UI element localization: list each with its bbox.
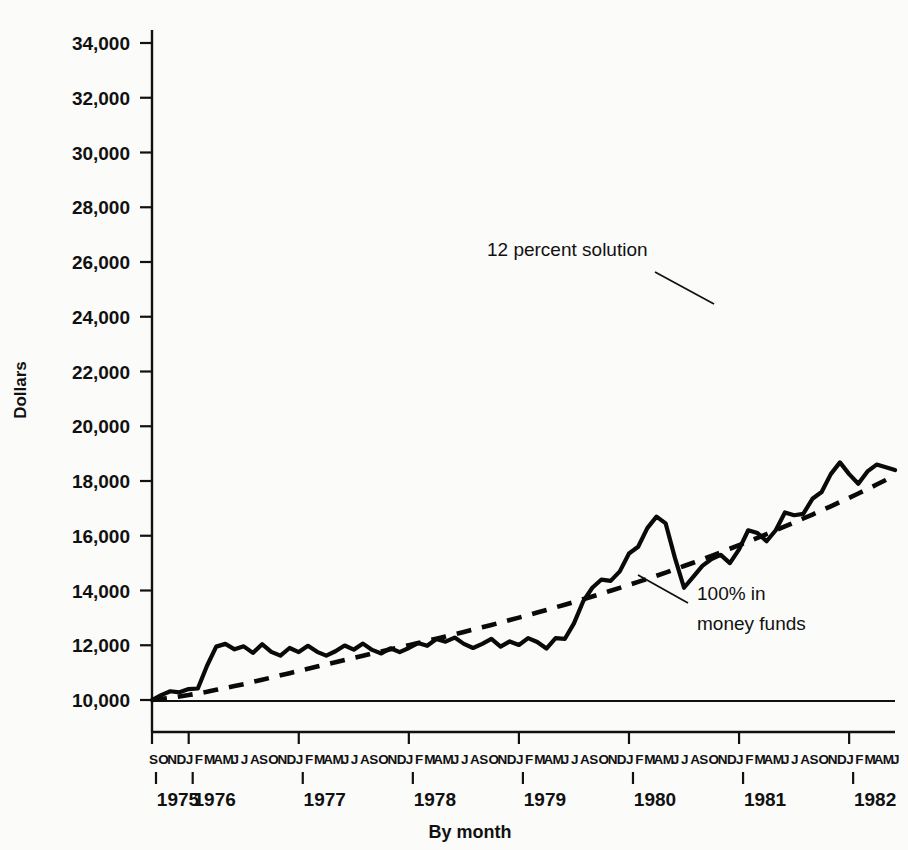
y-tick-label: 34,000: [72, 33, 130, 54]
y-tick-label: 16,000: [72, 526, 130, 547]
annotation-twelve-percent-leader: [655, 272, 714, 304]
y-tick-label: 22,000: [72, 362, 130, 383]
x-month-letter: N: [167, 752, 176, 767]
x-month-letter: J: [672, 752, 679, 767]
x-month-letter: J: [351, 752, 358, 767]
series-twelve-percent-line: [152, 462, 895, 700]
y-tick-label: 10,000: [72, 690, 130, 711]
x-month-letter: S: [699, 752, 708, 767]
y-axis-title-text: Dollars: [11, 361, 30, 419]
x-axis-month-letters: SONDJFMAMJJASONDJFMAMJJASONDJFMAMJJASOND…: [149, 752, 899, 767]
x-month-letter: F: [195, 752, 203, 767]
x-year-label: 1979: [524, 789, 566, 810]
x-month-letter: S: [149, 752, 158, 767]
y-tick-label: 32,000: [72, 88, 130, 109]
y-tick-label: 26,000: [72, 252, 130, 273]
x-month-letter: N: [828, 752, 837, 767]
x-month-letter: J: [782, 752, 789, 767]
x-month-letter: N: [608, 752, 617, 767]
x-month-letter: S: [369, 752, 378, 767]
x-month-letter: N: [718, 752, 727, 767]
x-year-label: 1980: [634, 789, 676, 810]
x-month-letter: J: [892, 752, 899, 767]
y-tick-label: 18,000: [72, 471, 130, 492]
annotation-money-funds-label-line1: 100% in: [697, 583, 766, 604]
y-axis-ticks: 10,00012,00014,00016,00018,00020,00022,0…: [72, 33, 152, 711]
x-month-letter: J: [736, 752, 743, 767]
x-month-letter: S: [589, 752, 598, 767]
x-month-letter: S: [479, 752, 488, 767]
x-year-label: 1978: [414, 789, 456, 810]
x-month-letter: J: [516, 752, 523, 767]
annotation-money-funds-label-line2: money funds: [697, 613, 806, 634]
y-tick-label: 12,000: [72, 635, 130, 656]
x-month-letter: F: [415, 752, 423, 767]
x-month-letter: J: [232, 752, 239, 767]
x-month-letter: F: [855, 752, 863, 767]
x-month-letter: F: [525, 752, 533, 767]
y-axis-title: Dollars: [11, 361, 30, 419]
annotation-money-funds: 100% in money funds: [638, 575, 806, 634]
annotation-twelve-percent-label: 12 percent solution: [487, 239, 648, 260]
x-axis-year-ticks: [152, 732, 849, 744]
chart-svg: Dollars 10,00012,00014,00016,00018,00020…: [0, 0, 908, 850]
x-year-label: 1976: [194, 789, 236, 810]
x-year-label: 1981: [744, 789, 787, 810]
x-month-letter: N: [387, 752, 396, 767]
x-month-letter: J: [571, 752, 578, 767]
x-month-letter: N: [498, 752, 507, 767]
y-tick-label: 28,000: [72, 197, 130, 218]
x-month-letter: J: [241, 752, 248, 767]
x-month-letter: J: [626, 752, 633, 767]
x-axis-title: By month: [429, 822, 512, 842]
x-month-letter: J: [296, 752, 303, 767]
x-month-letter: J: [461, 752, 468, 767]
x-month-letter: J: [406, 752, 413, 767]
x-axis-year-marks: [156, 772, 853, 784]
y-tick-label: 20,000: [72, 416, 130, 437]
annotation-twelve-percent: 12 percent solution: [487, 239, 714, 304]
x-year-label: 1982: [854, 789, 896, 810]
x-month-letter: J: [791, 752, 798, 767]
y-tick-label: 14,000: [72, 581, 130, 602]
x-month-letter: J: [452, 752, 459, 767]
y-tick-label: 24,000: [72, 307, 130, 328]
x-month-letter: N: [277, 752, 286, 767]
x-month-letter: J: [342, 752, 349, 767]
x-month-letter: S: [259, 752, 268, 767]
x-month-letter: F: [305, 752, 313, 767]
x-month-letter: F: [745, 752, 753, 767]
series-money-funds-line: [152, 476, 895, 700]
x-month-letter: J: [681, 752, 688, 767]
x-month-letter: J: [562, 752, 569, 767]
y-tick-label: 30,000: [72, 143, 130, 164]
x-month-letter: J: [186, 752, 193, 767]
chart-figure: Dollars 10,00012,00014,00016,00018,00020…: [0, 0, 908, 850]
x-axis-year-labels: 19751976197719781979198019811982: [157, 789, 896, 810]
x-month-letter: F: [635, 752, 643, 767]
x-year-label: 1977: [304, 789, 346, 810]
x-month-letter: J: [846, 752, 853, 767]
x-month-letter: S: [809, 752, 818, 767]
